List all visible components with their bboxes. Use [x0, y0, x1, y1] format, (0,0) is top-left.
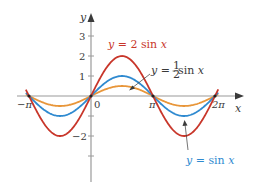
annotation-sinx: y = sin x — [183, 120, 236, 167]
y-axis-arrow-icon — [88, 13, 95, 22]
y-tick-2: 2 — [79, 51, 85, 62]
y-tick-1: 1 — [79, 71, 85, 82]
svg-text:sin x: sin x — [178, 64, 205, 77]
y-axis-label: y — [79, 11, 87, 24]
zero-crossing-point — [151, 94, 154, 97]
x-tick-neg-pi: −π — [17, 99, 32, 110]
annotation-sinx-pointer — [185, 124, 188, 150]
pointer-arrow-icon — [183, 120, 188, 126]
x-axis: x — [17, 93, 244, 116]
zero-crossing-point — [27, 94, 30, 97]
zero-crossing-point — [213, 94, 216, 97]
annotation-half-sinx: y = 1 2 sin x — [129, 59, 205, 91]
y-tick-neg2: −2 — [72, 131, 87, 142]
svg-text:y = sin x: y = sin x — [185, 154, 235, 167]
annotation-2sinx: y = 2 sin x — [107, 38, 168, 51]
y-tick-3: 3 — [79, 31, 85, 42]
zero-crossing-point — [89, 94, 92, 97]
x-tick-origin: 0 — [94, 99, 100, 110]
x-axis-label: x — [235, 102, 242, 115]
sine-amplitude-chart: x y 3 2 1 −2 0 −π π 2π y = 2 sin x y = 1 — [0, 0, 253, 184]
svg-text:y =: y = — [150, 64, 170, 77]
x-axis-arrow-icon — [235, 93, 244, 100]
